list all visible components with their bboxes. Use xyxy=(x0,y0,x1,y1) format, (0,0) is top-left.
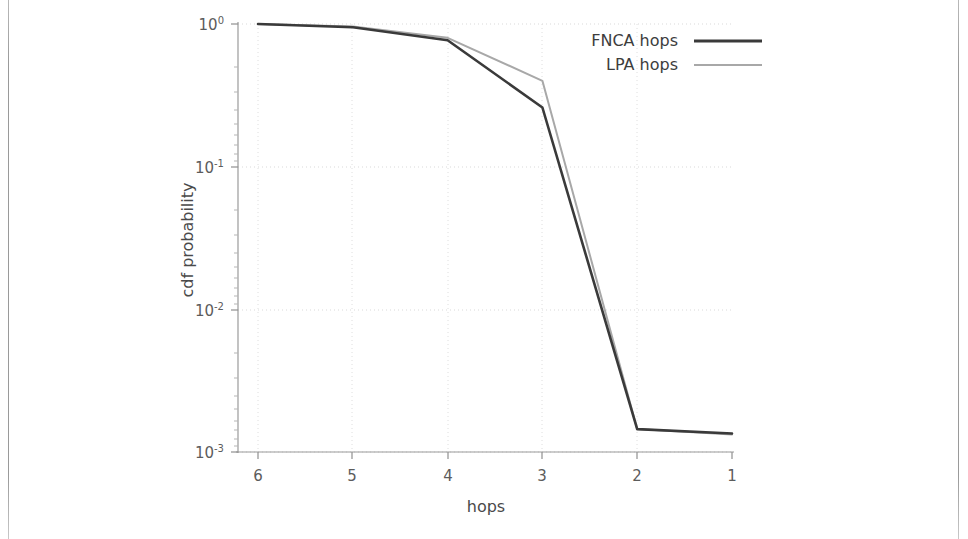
legend-label-fnca-hops: FNCA hops xyxy=(591,31,678,50)
y-axis-title: cdf probability xyxy=(178,182,197,297)
y-axis-major-ticks xyxy=(231,24,238,452)
series-line-fnca-hops xyxy=(258,24,732,434)
ytick-exponent-1e-1: -1 xyxy=(214,158,224,169)
svg-text:10-1: 10-1 xyxy=(195,158,224,177)
ytick-mantissa-1e-3: 10 xyxy=(195,444,214,462)
ytick-mantissa-1e-1: 10 xyxy=(195,159,214,177)
cdf-probability-line-chart: 100 10-1 10-2 10-3 6 5 4 3 2 1 hops cdf … xyxy=(0,0,968,539)
xtick-label-6: 6 xyxy=(253,467,263,485)
chart-legend: FNCA hops LPA hops xyxy=(591,31,762,74)
xtick-label-2: 2 xyxy=(632,467,642,485)
ytick-mantissa-1e0: 10 xyxy=(199,16,218,34)
svg-text:100: 100 xyxy=(199,15,224,34)
data-series xyxy=(258,24,732,434)
x-axis-title: hops xyxy=(467,497,505,516)
grid-lines xyxy=(238,24,732,452)
axis-spines xyxy=(236,22,734,453)
xtick-label-1: 1 xyxy=(727,467,737,485)
y-axis-tick-labels: 100 10-1 10-2 10-3 xyxy=(195,15,224,462)
x-axis-ticks xyxy=(258,452,732,459)
ytick-mantissa-1e-2: 10 xyxy=(195,302,214,320)
x-axis-tick-labels: 6 5 4 3 2 1 xyxy=(253,467,737,485)
ytick-exponent-1e-3: -3 xyxy=(214,443,224,454)
svg-text:10-2: 10-2 xyxy=(195,301,224,320)
series-line-lpa-hops xyxy=(258,24,732,434)
xtick-label-3: 3 xyxy=(537,467,547,485)
legend-label-lpa-hops: LPA hops xyxy=(606,55,678,74)
ytick-exponent-1e0: 0 xyxy=(218,15,224,26)
ytick-exponent-1e-2: -2 xyxy=(214,301,224,312)
figure-container: 100 10-1 10-2 10-3 6 5 4 3 2 1 hops cdf … xyxy=(0,0,968,539)
svg-text:10-3: 10-3 xyxy=(195,443,224,462)
xtick-label-5: 5 xyxy=(347,467,357,485)
xtick-label-4: 4 xyxy=(443,467,453,485)
